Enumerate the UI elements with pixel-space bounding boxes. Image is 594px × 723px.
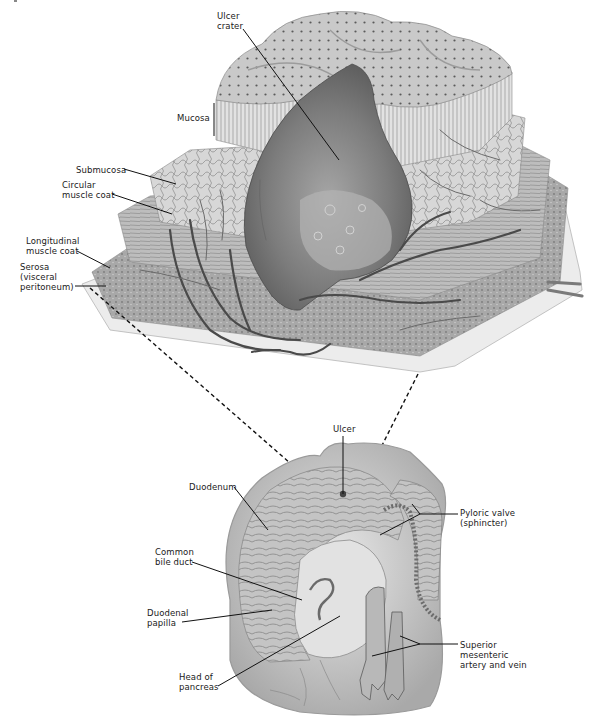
anatomy-diagram [0,0,594,723]
label-pyloric-valve: Pyloric valve (sphincter) [460,508,515,528]
corner-mark [14,0,17,2]
label-duodenum: Duodenum [189,482,237,492]
label-ulcer-crater: Ulcer crater [217,11,243,31]
label-longitudinal-muscle-coat: Longitudinal muscle coat [26,236,80,256]
label-serosa: Serosa (visceral peritoneum) [20,262,74,292]
label-superior-mesenteric: Superior mesenteric artery and vein [460,640,527,670]
label-head-of-pancreas: Head of pancreas [179,672,219,692]
label-circular-muscle-coat: Circular muscle coat [62,180,115,200]
duodenum-illustration [226,443,446,715]
label-common-bile-duct: Common bile duct [155,547,194,567]
wall-section-illustration [82,11,582,372]
label-mucosa: Mucosa [177,113,210,123]
label-duodenal-papilla: Duodenal papilla [147,608,189,628]
label-ulcer: Ulcer [333,424,355,434]
label-submucosa: Submucosa [76,165,126,175]
